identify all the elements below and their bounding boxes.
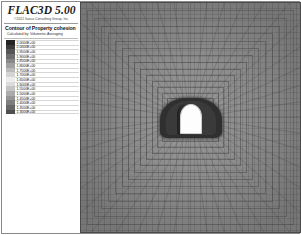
color-scale-rows: 2.0000E+002.0000E+001.9500E+001.9000E+00… [6, 40, 80, 114]
calculation-note: Calculated by: Volumetric Averaging [2, 32, 80, 37]
outer-frame: FLAC3D 5.00 ©2012 Itasca Consulting Grou… [1, 1, 300, 234]
title-block: FLAC3D 5.00 ©2012 Itasca Consulting Grou… [2, 2, 80, 22]
color-scale-row: 1.3000E+00 [6, 110, 80, 115]
tunnel-opening [180, 104, 202, 134]
flac3d-screenshot: FLAC3D 5.00 ©2012 Itasca Consulting Grou… [0, 0, 301, 235]
divider-top [4, 23, 78, 24]
app-title: FLAC3D 5.00 [5, 4, 78, 17]
color-scale-value-cell: 1.3000E+00 [15, 110, 80, 115]
color-scale-value: 1.6500E+00 [17, 78, 36, 82]
plot-area[interactable] [80, 2, 301, 233]
color-scale-value: 1.3000E+00 [17, 110, 36, 114]
tunnel-group [160, 98, 222, 138]
contour-title: Contour of Property cohesion [2, 25, 80, 32]
color-scale-value: 1.8000E+00 [17, 64, 36, 68]
copyright-notice: ©2012 Itasca Consulting Group, Inc. [5, 17, 78, 22]
divider-legend [4, 38, 78, 39]
color-scale-value: 1.4000E+00 [17, 101, 36, 105]
legend-panel: FLAC3D 5.00 ©2012 Itasca Consulting Grou… [2, 2, 80, 233]
color-scale: 2.0000E+002.0000E+001.9500E+001.9000E+00… [2, 40, 80, 114]
color-scale-value: 1.9500E+00 [17, 50, 36, 54]
color-scale-value: 1.5000E+00 [17, 92, 36, 96]
color-scale-value: 1.8500E+00 [17, 59, 36, 63]
color-scale-value: 1.7000E+00 [17, 73, 36, 77]
color-swatch [6, 110, 15, 115]
color-scale-value: 1.5500E+00 [17, 87, 36, 91]
